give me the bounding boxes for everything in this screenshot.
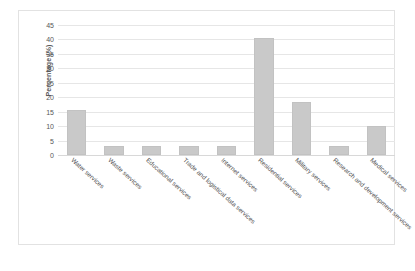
gridline — [58, 155, 395, 156]
plot-area: 051015202530354045 — [58, 25, 395, 155]
bar — [254, 38, 273, 155]
bar — [142, 146, 161, 155]
bar — [217, 146, 236, 155]
bar — [292, 102, 311, 155]
bar-chart-figure: Percentage (%) 051015202530354045 Water … — [0, 0, 415, 271]
x-axis-tick-label: Medical services — [369, 157, 408, 193]
y-axis-tick-label: 30 — [46, 65, 54, 72]
y-axis-tick-label: 15 — [46, 108, 54, 115]
x-axis-tick-label: Trade and logistical data services — [182, 157, 257, 225]
x-axis-tick-label: Internet services — [219, 157, 258, 193]
y-axis-tick-label: 35 — [46, 50, 54, 57]
x-axis-tick-label: Water services — [69, 157, 105, 190]
bar — [67, 110, 86, 155]
y-axis-tick-label: 5 — [50, 137, 54, 144]
bar — [329, 146, 348, 155]
chart-frame: Percentage (%) 051015202530354045 Water … — [18, 10, 395, 245]
bar — [179, 146, 198, 155]
x-axis-tick-label: Military services — [294, 157, 332, 192]
y-axis-tick-label: 20 — [46, 94, 54, 101]
y-axis-tick-label: 10 — [46, 123, 54, 130]
x-axis-tick-label: Research and development services — [332, 157, 413, 231]
y-axis-tick-label: 40 — [46, 36, 54, 43]
bar — [367, 126, 386, 155]
y-axis-tick-label: 0 — [50, 152, 54, 159]
y-axis-tick-label: 45 — [46, 22, 54, 29]
bar — [104, 146, 123, 155]
x-axis-tick-labels: Water servicesWaste servicesEducational … — [58, 157, 395, 252]
y-axis-tick-label: 25 — [46, 79, 54, 86]
x-axis-tick-label: Waste services — [107, 157, 143, 191]
bar-series — [58, 25, 395, 155]
